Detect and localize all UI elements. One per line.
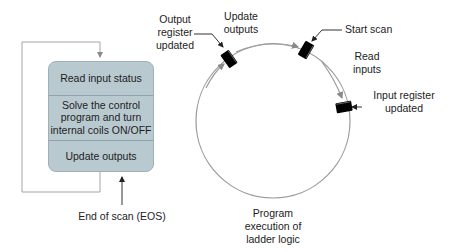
label-line: execution of <box>245 220 302 232</box>
scan-steps-box: Read input status Solve the control prog… <box>48 61 154 172</box>
label-line: Read <box>354 50 379 62</box>
circle-arrow-right-down <box>322 62 342 98</box>
step-label-line: Solve the control <box>62 99 140 111</box>
output-register-label: Output register updated <box>150 13 200 51</box>
read-inputs-label: Read inputs <box>346 50 388 76</box>
start-scan-label: Start scan <box>345 23 397 36</box>
label-line: updated <box>385 102 423 114</box>
eos-label-text: End of scan (EOS) <box>78 210 166 222</box>
label-line: updated <box>156 39 194 51</box>
label-line: Output <box>159 13 191 25</box>
label-line: Program <box>253 207 293 219</box>
label-line: Update <box>224 10 258 22</box>
step-read-input-status: Read input status <box>49 62 153 96</box>
program-execution-label: Program execution of ladder logic <box>240 207 306 245</box>
step-label: Solve the control program and turn inter… <box>51 99 152 137</box>
circle-arrow-left-up <box>206 64 224 88</box>
start-scan-leader <box>312 30 342 41</box>
step-label: Update outputs <box>65 150 136 163</box>
label-line: Start scan <box>345 23 392 35</box>
start-scan-marker-icon <box>298 41 315 60</box>
eos-label: End of scan (EOS) <box>74 210 170 223</box>
step-solve-program: Solve the control program and turn inter… <box>49 95 153 141</box>
input-register-marker-icon <box>335 101 352 114</box>
step-label-line: internal coils ON/OFF <box>51 124 152 136</box>
step-label-line: program and turn <box>61 111 142 123</box>
step-label: Read input status <box>60 72 142 85</box>
label-line: ladder logic <box>246 233 300 245</box>
label-line: register <box>157 26 192 38</box>
scan-cycle-circle <box>196 44 350 198</box>
input-register-label: Input register updated <box>366 89 442 115</box>
label-line: outputs <box>224 23 258 35</box>
step-update-outputs: Update outputs <box>49 140 153 172</box>
label-line: Input register <box>373 89 434 101</box>
label-line: inputs <box>353 63 381 75</box>
update-outputs-label: Update outputs <box>218 10 264 36</box>
